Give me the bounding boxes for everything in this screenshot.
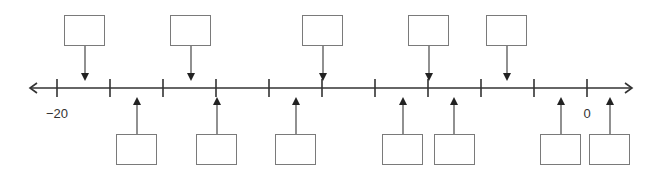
up-arrow-icon: [399, 97, 407, 105]
answer-box-top[interactable]: [302, 15, 343, 46]
number-line-diagram: −200: [0, 0, 658, 179]
answer-box-bottom[interactable]: [116, 134, 157, 165]
up-arrow-icon: [292, 97, 300, 105]
down-arrow-icon: [187, 73, 195, 81]
answer-box-bottom[interactable]: [382, 134, 423, 165]
down-arrow-icon: [319, 73, 327, 81]
answer-box-bottom[interactable]: [196, 134, 237, 165]
answer-box-bottom[interactable]: [275, 134, 316, 165]
answer-box-bottom[interactable]: [434, 134, 475, 165]
answer-box-top[interactable]: [486, 15, 527, 46]
down-arrow-icon: [81, 73, 89, 81]
down-arrow-icon: [425, 73, 433, 81]
answer-box-bottom[interactable]: [540, 134, 581, 165]
answer-box-top[interactable]: [170, 15, 211, 46]
tick-label: 0: [583, 107, 590, 120]
up-arrow-icon: [557, 97, 565, 105]
answer-box-bottom[interactable]: [589, 134, 630, 165]
up-arrow-icon: [606, 97, 614, 105]
up-arrow-icon: [213, 97, 221, 105]
down-arrow-icon: [503, 73, 511, 81]
up-arrow-icon: [450, 97, 458, 105]
answer-box-top[interactable]: [64, 15, 105, 46]
up-arrow-icon: [133, 97, 141, 105]
answer-box-top[interactable]: [408, 15, 449, 46]
tick-label: −20: [46, 107, 68, 120]
